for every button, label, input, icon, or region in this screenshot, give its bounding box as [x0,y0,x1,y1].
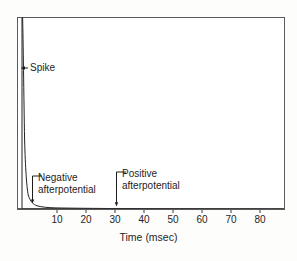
annotation-positive-afterpotential: Positive afterpotential [122,168,180,191]
x-tick-label-30: 30 [103,214,127,225]
x-tick-label-50: 50 [161,214,185,225]
annotation-positive-line2: afterpotential [122,180,180,192]
x-tick-label-40: 40 [132,214,156,225]
annotation-negative-afterpotential: Negative afterpotential [38,172,96,195]
x-tick-label-60: 60 [190,214,214,225]
annotation-spike-label: Spike [30,62,55,73]
annotation-spike: Spike [30,62,55,74]
x-axis-ticks [57,210,260,214]
x-axis-title: Time (msec) [0,231,297,243]
annotation-negative-line2: afterpotential [38,184,96,196]
annotation-negative-line1: Negative [38,172,96,184]
annotation-positive-line1: Positive [122,168,180,180]
action-potential-figure: Spike Negative afterpotential Positive a… [0,0,297,261]
x-tick-label-10: 10 [45,214,69,225]
x-tick-label-20: 20 [74,214,98,225]
x-tick-label-70: 70 [219,214,243,225]
x-tick-label-80: 80 [248,214,272,225]
